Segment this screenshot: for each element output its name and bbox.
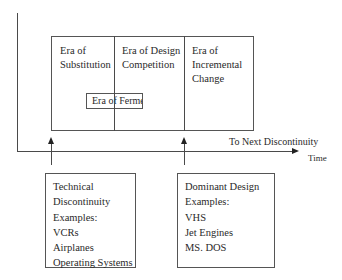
era-substitution-line-1: Era of xyxy=(60,44,111,58)
era-design-competition: Era of Design Competition xyxy=(122,44,180,72)
callout-line: VCRs xyxy=(53,225,135,240)
callout-line: Jet Engines xyxy=(185,225,274,240)
y-axis-line xyxy=(17,13,18,152)
callout-line: MS. DOS xyxy=(185,240,274,255)
x-axis-line xyxy=(17,151,137,152)
time-axis-label: Time xyxy=(308,151,327,165)
era-of-ferment-label: Era of Fermen xyxy=(92,95,143,106)
callout-line: Operating Systems xyxy=(53,255,135,270)
era-incremental-change: Era of Incremental Change xyxy=(192,44,242,86)
callout-line: Examples: xyxy=(53,210,135,225)
era-divider-2 xyxy=(184,36,185,131)
technical-discontinuity-callout: Technical Discontinuity Examples: VCRs A… xyxy=(45,173,136,268)
era-design-competition-line-1: Era of Design xyxy=(122,44,180,58)
era-divider-1 xyxy=(114,36,115,131)
time-arrow-line xyxy=(137,151,294,152)
dominant-design-arrow-head-icon xyxy=(181,137,187,144)
era-substitution-line-2: Substitution xyxy=(60,58,111,72)
era-substitution: Era of Substitution xyxy=(60,44,111,72)
discontinuity-arrow-line xyxy=(51,142,52,165)
dominant-design-arrow-line xyxy=(184,142,185,165)
callout-line: Examples: xyxy=(185,194,274,209)
era-incremental-change-line-2: Incremental xyxy=(192,58,242,72)
era-design-competition-line-2: Competition xyxy=(122,58,180,72)
era-divider-1-over-ferment xyxy=(114,93,115,109)
discontinuity-arrow-head-icon xyxy=(48,137,54,144)
callout-line: Technical xyxy=(53,179,135,194)
callout-line: Dominant Design xyxy=(185,179,274,194)
next-discontinuity-label: To Next Discontinuity xyxy=(229,135,318,149)
diagram-canvas: To Next Discontinuity Time Era of Substi… xyxy=(0,0,342,280)
era-incremental-change-line-1: Era of xyxy=(192,44,242,58)
callout-line: VHS xyxy=(185,210,274,225)
dominant-design-callout: Dominant Design Examples: VHS Jet Engine… xyxy=(177,173,275,268)
callout-line: Discontinuity xyxy=(53,194,135,209)
callout-line: Airplanes xyxy=(53,240,135,255)
era-incremental-change-line-3: Change xyxy=(192,72,242,86)
